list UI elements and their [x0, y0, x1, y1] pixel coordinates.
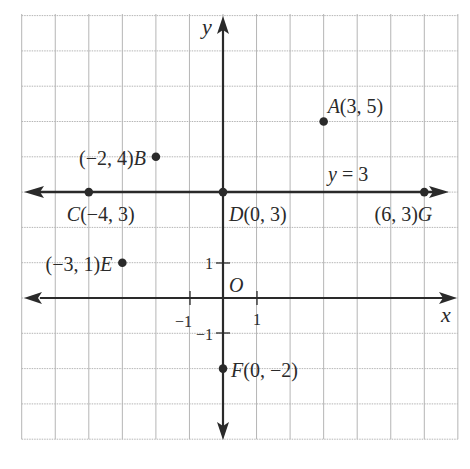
point-label: A(3, 5)	[326, 95, 384, 118]
point-b: (−2, 4)B	[79, 147, 160, 170]
tick-label-x-neg1: −1	[175, 313, 192, 330]
point-c: C(−4, 3)	[67, 188, 135, 226]
tick-label-y-1: 1	[205, 255, 213, 272]
point-f: F(0, −2)	[219, 359, 298, 382]
point-label: F(0, −2)	[230, 359, 298, 382]
points: A(3, 5)(−2, 4)BC(−4, 3)D(0, 3)(−3, 1)EF(…	[46, 95, 433, 382]
point-a: A(3, 5)	[319, 95, 383, 126]
point-dot-icon	[85, 188, 94, 197]
point-dot-icon	[319, 117, 328, 126]
point-dot-icon	[219, 364, 228, 373]
x-axis-label: x	[440, 302, 451, 327]
point-label: (−3, 1)E	[46, 253, 113, 276]
point-dot-icon	[118, 258, 127, 267]
point-dot-icon	[420, 188, 429, 197]
point-dot-icon	[152, 153, 161, 162]
point-label: C(−4, 3)	[67, 203, 135, 226]
point-d: D(0, 3)	[219, 188, 287, 226]
y-axis-label: y	[200, 14, 212, 39]
point-g: (6, 3)G	[375, 188, 433, 226]
point-dot-icon	[219, 188, 228, 197]
tick-label-x-1: 1	[253, 311, 261, 328]
point-label: D(0, 3)	[228, 203, 287, 226]
point-e: (−3, 1)E	[46, 253, 127, 276]
y-axis	[217, 16, 229, 440]
coordinate-plane: y x O 1 −1 1 −1 y = 3 A(3, 5)(−2, 4)BC(−…	[0, 0, 470, 469]
point-label: (−2, 4)B	[79, 147, 146, 170]
line-label: y = 3	[326, 163, 368, 186]
tick-label-y-neg1: −1	[196, 326, 213, 343]
origin-label: O	[229, 274, 243, 296]
point-label: (6, 3)G	[375, 203, 433, 226]
